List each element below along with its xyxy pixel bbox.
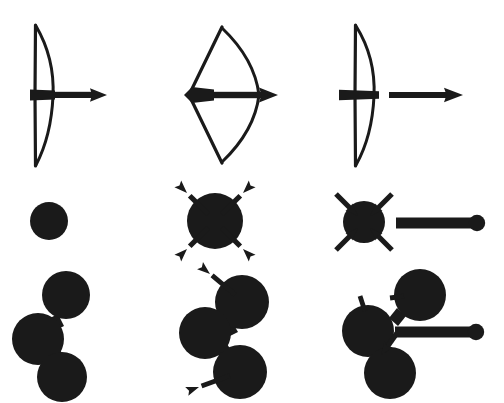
disc-top bbox=[42, 271, 90, 319]
figure-canvas: Bow-and-arrow and particle-cluster schem… bbox=[0, 0, 504, 403]
rod-knob bbox=[468, 324, 484, 340]
disc-bottom bbox=[213, 345, 267, 399]
disc-bottom bbox=[37, 352, 87, 402]
rod-knob bbox=[469, 215, 485, 231]
disc-bottom bbox=[364, 347, 416, 399]
flight-arrow-shaft bbox=[389, 92, 447, 98]
disc bbox=[30, 202, 68, 240]
rod-shaft bbox=[396, 218, 472, 229]
arrow-nock-residual bbox=[339, 90, 379, 100]
panel-disc-plain bbox=[30, 202, 68, 240]
arrow-shaft bbox=[54, 92, 92, 98]
background bbox=[0, 0, 504, 403]
arrow-shaft bbox=[210, 92, 262, 98]
diagram-svg: Bow-and-arrow and particle-cluster schem… bbox=[0, 0, 504, 403]
arrow-nock bbox=[30, 90, 55, 101]
rod-shaft bbox=[395, 327, 471, 338]
